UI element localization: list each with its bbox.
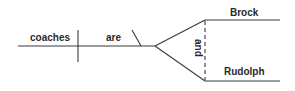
complement-label-2: Rudolph <box>224 66 265 77</box>
sentence-diagram: coaches are Brock Rudolph and <box>0 0 295 91</box>
complement-slant <box>132 30 141 46</box>
subject-label: coaches <box>30 32 70 43</box>
complement-label-1: Brock <box>230 7 259 18</box>
verb-label: are <box>106 32 121 43</box>
conjunction-label: and <box>193 39 204 57</box>
